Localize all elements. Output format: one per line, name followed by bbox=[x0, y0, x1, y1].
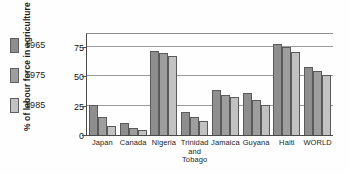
bar bbox=[107, 126, 116, 135]
bar bbox=[98, 117, 107, 135]
bar bbox=[138, 130, 147, 135]
bar-group bbox=[149, 33, 180, 135]
x-axis-category-labels: JapanCanadaNigeriaTrinidadandTobagoJamai… bbox=[87, 139, 333, 169]
bar-group bbox=[118, 33, 149, 135]
bar-group bbox=[302, 33, 333, 135]
bar bbox=[199, 121, 208, 135]
bar bbox=[89, 105, 98, 135]
legend-swatch-1985 bbox=[10, 98, 19, 113]
x-axis-label-trinidad-and-tobago: TrinidadandTobago bbox=[179, 139, 210, 165]
bar bbox=[120, 123, 129, 135]
x-axis-label-jamaica: Jamaica bbox=[210, 139, 241, 148]
bar bbox=[212, 90, 221, 135]
x-axis-label-nigeria: Nigeria bbox=[149, 139, 180, 148]
legend-item-1965: 1965 bbox=[10, 34, 66, 56]
bar-group bbox=[87, 33, 118, 135]
bar bbox=[322, 75, 331, 135]
bar bbox=[221, 95, 230, 135]
legend-item-1985: 1985 bbox=[10, 94, 66, 116]
bar bbox=[243, 93, 252, 135]
bar bbox=[252, 100, 261, 135]
bar bbox=[230, 97, 239, 135]
x-axis-label-world: WORLD bbox=[302, 139, 333, 148]
bar bbox=[282, 47, 291, 135]
bar bbox=[291, 52, 300, 135]
bar-group bbox=[179, 33, 210, 135]
legend-swatch-1965 bbox=[10, 38, 19, 53]
bar bbox=[304, 67, 313, 135]
bar-group bbox=[210, 33, 241, 135]
bar bbox=[129, 128, 138, 135]
x-axis-label-guyana: Guyana bbox=[241, 139, 272, 148]
bar-chart: 1965 1975 1985 % of labour force in agri… bbox=[0, 0, 350, 174]
bar bbox=[150, 51, 159, 135]
x-axis-label-japan: Japan bbox=[87, 139, 118, 148]
legend-item-1975: 1975 bbox=[10, 64, 66, 86]
bar-group bbox=[241, 33, 272, 135]
bar bbox=[168, 56, 177, 135]
bar bbox=[159, 53, 168, 135]
bar bbox=[313, 71, 322, 135]
bar-group bbox=[272, 33, 303, 135]
bar bbox=[273, 44, 282, 135]
y-axis-title: % of labour force in agriculture bbox=[22, 3, 32, 131]
bar bbox=[261, 105, 270, 135]
bar bbox=[190, 117, 199, 135]
bar bbox=[181, 112, 190, 135]
chart-legend: 1965 1975 1985 bbox=[10, 34, 66, 124]
bars-layer bbox=[87, 33, 333, 135]
x-axis-label-canada: Canada bbox=[118, 139, 149, 148]
legend-swatch-1975 bbox=[10, 68, 19, 83]
x-axis-label-haiti: Haiti bbox=[272, 139, 303, 148]
